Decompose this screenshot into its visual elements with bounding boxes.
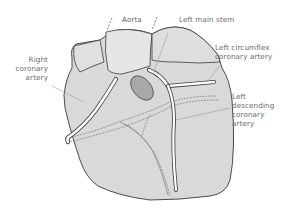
label-line: artery (15, 73, 48, 82)
label-line: Left circumflex (215, 43, 272, 52)
label-line: Right (15, 55, 48, 64)
label-line: Left (232, 92, 274, 101)
label-right-coronary-artery: Right coronary artery (15, 55, 48, 82)
aorta-trunk (105, 29, 152, 74)
label-left-descending-coronary-artery: Left descending coronary artery (232, 92, 274, 128)
label-line: coronary artery (215, 52, 272, 61)
left-atrium-lobe (152, 27, 220, 63)
label-line: descending (232, 101, 274, 110)
label-left-circumflex: Left circumflex coronary artery (215, 43, 272, 61)
label-line: coronary (232, 110, 274, 119)
label-line: artery (232, 119, 274, 128)
label-aorta: Aorta (122, 15, 142, 24)
label-line: coronary (15, 64, 48, 73)
label-left-main-stem: Left main stem (179, 15, 234, 24)
